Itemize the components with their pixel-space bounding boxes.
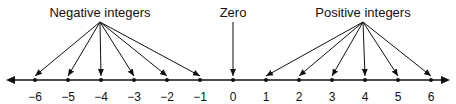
tick-dot: [198, 78, 202, 82]
pointer-arrow: [299, 22, 363, 76]
pointer-arrow: [100, 22, 101, 76]
tick-label: 1: [263, 90, 270, 104]
left-arrowhead-icon: [6, 76, 15, 84]
pointer-arrow: [100, 22, 134, 76]
tick-label: −1: [193, 90, 207, 104]
pointer-arrow: [100, 22, 167, 76]
zero-label: Zero: [220, 5, 247, 20]
tick-dot: [363, 78, 367, 82]
tick-label: −2: [160, 90, 174, 104]
tick-label: 0: [230, 90, 237, 104]
tick-dot: [165, 78, 169, 82]
tick-dot: [33, 78, 37, 82]
pointer-arrow: [68, 22, 100, 76]
pointer-arrows: [35, 22, 431, 76]
tick-label: −3: [127, 90, 141, 104]
pointer-arrow: [35, 22, 100, 76]
tick-label: 3: [329, 90, 336, 104]
negative-integers-label: Negative integers: [49, 5, 151, 20]
number-line-diagram: Negative integers Zero Positive integers…: [0, 0, 456, 104]
pointer-arrow: [100, 22, 200, 76]
tick-label: −5: [61, 90, 75, 104]
pointer-arrow: [266, 22, 363, 76]
tick-dot: [99, 78, 103, 82]
tick-dot: [429, 78, 433, 82]
tick-dot: [264, 78, 268, 82]
tick-label: 4: [362, 90, 369, 104]
tick-label: 5: [395, 90, 402, 104]
positive-integers-label: Positive integers: [315, 5, 411, 20]
tick-group: −6−5−4−3−2−10123456: [28, 78, 435, 104]
tick-dot: [396, 78, 400, 82]
tick-label: −4: [94, 90, 108, 104]
tick-label: 6: [428, 90, 435, 104]
tick-label: 2: [296, 90, 303, 104]
tick-dot: [132, 78, 136, 82]
pointer-arrow: [363, 22, 398, 76]
tick-label: −6: [28, 90, 42, 104]
right-arrowhead-icon: [441, 76, 450, 84]
tick-dot: [66, 78, 70, 82]
tick-dot: [297, 78, 301, 82]
tick-dot: [330, 78, 334, 82]
tick-dot: [231, 78, 235, 82]
pointer-arrow: [363, 22, 365, 76]
pointer-arrow: [363, 22, 431, 76]
